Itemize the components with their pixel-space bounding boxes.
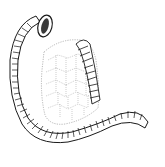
- tube-and-cells-drawing: [0, 0, 165, 167]
- tube-opening: [35, 14, 54, 39]
